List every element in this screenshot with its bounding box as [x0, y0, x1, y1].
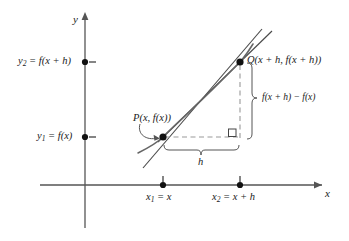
- y2-expression: = f(x + h): [26, 55, 71, 66]
- vertical-brace-difference: [247, 63, 257, 139]
- x1-expression: = x: [154, 191, 171, 202]
- y-axis-arrowhead: [82, 12, 89, 20]
- point-q-label-text: Q(x + h, f(x + h)): [247, 54, 321, 65]
- x-tick-label-x1: x1 = x: [146, 192, 171, 203]
- point-p-label-text: P(x, f(x)): [133, 112, 171, 123]
- brace-label-difference-text: f(x + h) − f(x): [262, 92, 315, 102]
- y-tick-label-y2: y2 = f(x + h): [18, 56, 71, 67]
- x-tick-dot-x2: [237, 182, 243, 188]
- y-axis-label: y: [73, 14, 78, 25]
- y-tick-dot-y1: [82, 134, 88, 140]
- x-axis-arrowhead: [314, 182, 322, 189]
- figure-container: y x y2 = f(x + h) y1 = f(x) x1 = x x2 = …: [0, 0, 349, 241]
- y1-expression: = f(x): [45, 130, 72, 141]
- y-tick-dot-y2: [82, 59, 88, 65]
- point-q-marker: [236, 58, 243, 65]
- x-tick-dot-x1: [160, 182, 166, 188]
- x-axis-label: x: [325, 188, 330, 199]
- point-p-marker: [159, 133, 166, 140]
- brace-label-difference: f(x + h) − f(x): [262, 93, 315, 103]
- right-angle-square-icon: [229, 129, 237, 137]
- horizontal-brace-h: [164, 145, 239, 155]
- brace-label-h: h: [198, 157, 203, 168]
- x2-expression: = x + h: [220, 191, 255, 202]
- x-tick-label-x2: x2 = x + h: [212, 192, 255, 203]
- y-tick-label-y1: y1 = f(x): [37, 131, 72, 142]
- point-q-label: Q(x + h, f(x + h)): [247, 55, 321, 66]
- diagram-canvas: [0, 0, 349, 241]
- point-p-label: P(x, f(x)): [133, 113, 171, 124]
